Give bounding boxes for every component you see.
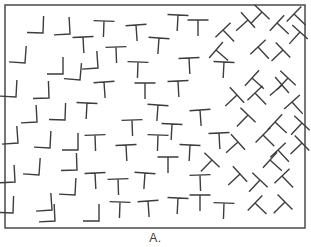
texture-figure: A.	[0, 0, 311, 247]
texture-canvas	[0, 0, 311, 247]
figure-frame	[5, 5, 305, 228]
panel-label: A.	[0, 231, 311, 245]
